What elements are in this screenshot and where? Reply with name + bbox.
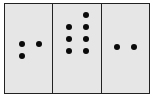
dot xyxy=(66,48,72,54)
dot xyxy=(83,12,89,18)
dot xyxy=(83,48,89,54)
dot xyxy=(114,44,120,50)
dot xyxy=(83,24,89,30)
panel-3 xyxy=(101,4,149,93)
panel-2 xyxy=(52,4,101,93)
dot xyxy=(19,41,25,47)
panel-1 xyxy=(5,4,52,93)
dot xyxy=(66,36,72,42)
dot xyxy=(19,53,25,59)
dot xyxy=(83,36,89,42)
dot-panels-figure xyxy=(4,3,150,94)
dot xyxy=(131,44,137,50)
dot xyxy=(36,41,42,47)
dot xyxy=(66,24,72,30)
